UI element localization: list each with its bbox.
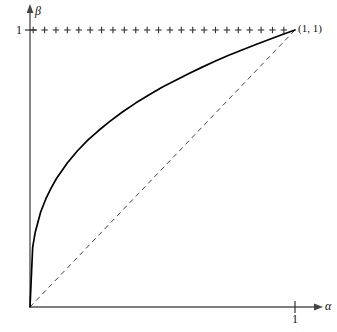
plot-canvas	[0, 0, 337, 332]
x-axis-label: α	[325, 300, 331, 312]
concavity-figure: β α 1 1 (1, 1)	[0, 0, 337, 332]
diagonal-reference-line	[30, 30, 295, 307]
plus-marker-row	[30, 27, 287, 33]
x-axis-tick-label: 1	[292, 313, 298, 325]
y-axis-arrowhead	[27, 4, 34, 13]
y-axis-tick-label: 1	[16, 24, 22, 36]
point-label-one-one: (1, 1)	[298, 23, 322, 34]
x-axis-arrowhead	[314, 304, 323, 311]
y-axis-label: β	[35, 5, 41, 17]
